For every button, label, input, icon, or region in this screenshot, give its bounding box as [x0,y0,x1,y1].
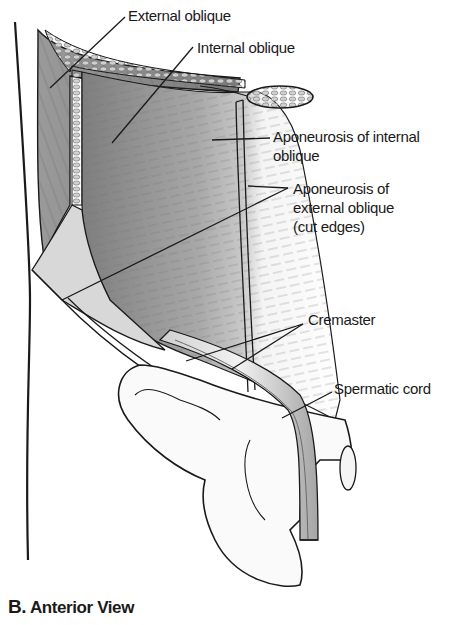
label-aponeurosis-external-oblique-line2: external oblique [293,199,394,217]
label-spermatic-cord: Spermatic cord [334,380,431,398]
label-aponeurosis-internal-oblique-line2: oblique [273,147,319,165]
caption-letter: B. [8,596,26,617]
label-external-oblique: External oblique [128,7,231,25]
figure-caption: B. Anterior View [8,596,134,618]
label-cremaster: Cremaster [308,311,375,329]
label-aponeurosis-external-oblique-line3: (cut edges) [293,218,365,236]
label-aponeurosis-external-oblique-line1: Aponeurosis of [293,180,389,198]
anatomical-illustration [0,0,452,625]
caption-text: Anterior View [30,598,134,617]
cut-muscle-ellipse [247,86,313,108]
body-contour-line [15,22,30,560]
label-internal-oblique: Internal oblique [197,39,295,57]
label-aponeurosis-internal-oblique-line1: Aponeurosis of internal [273,128,420,146]
